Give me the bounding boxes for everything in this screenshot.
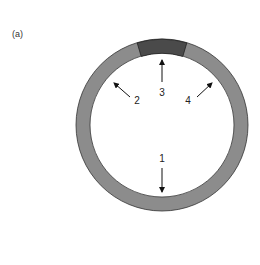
arrow-label-2: 2 bbox=[134, 95, 140, 106]
arrow-label-1: 1 bbox=[159, 153, 165, 164]
arrow-3: 3 bbox=[159, 60, 165, 98]
arrow-1: 1 bbox=[159, 153, 165, 192]
arrow-label-4: 4 bbox=[185, 95, 191, 106]
arrow-label-3: 3 bbox=[159, 87, 165, 98]
ring-dark-segment bbox=[137, 39, 187, 56]
arrow-4: 4 bbox=[185, 83, 212, 106]
arrow-2: 2 bbox=[114, 83, 140, 106]
ring-diagram: 3 2 4 1 bbox=[0, 0, 260, 265]
